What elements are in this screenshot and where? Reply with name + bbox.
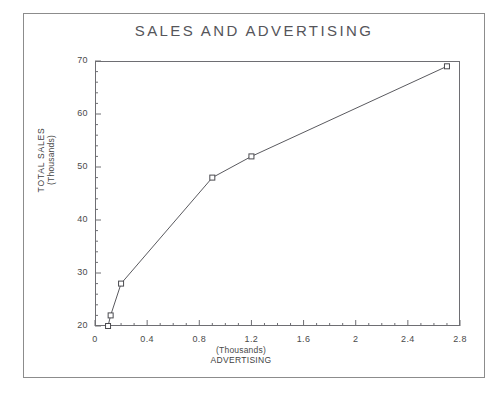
data-point-marker	[444, 64, 449, 69]
x-axis-tick-label: 0.8	[182, 334, 216, 344]
y-axis-title: TOTAL SALES (Thousands)	[36, 112, 56, 208]
x-axis-tick-label: 2	[339, 334, 373, 344]
y-axis-tick-label: 60	[62, 108, 88, 118]
data-point-marker	[108, 313, 113, 318]
data-point-marker	[106, 324, 111, 329]
y-axis-name-label: TOTAL SALES	[36, 112, 46, 208]
x-axis-tick-label: 1.6	[287, 334, 321, 344]
y-axis-tick-label: 40	[62, 214, 88, 224]
x-axis-title: (Thousands) ADVERTISING	[171, 345, 311, 365]
y-axis-ticks	[95, 61, 101, 326]
x-axis-name-label: ADVERTISING	[171, 355, 311, 365]
y-axis-tick-label: 20	[62, 320, 88, 330]
data-point-marker	[249, 154, 254, 159]
x-axis-tick-label: 2.4	[391, 334, 425, 344]
x-axis-ticks	[95, 320, 460, 326]
data-line	[108, 66, 447, 326]
x-axis-units-label: (Thousands)	[171, 345, 311, 355]
data-point-marker	[119, 281, 124, 286]
x-axis-tick-label: 0.4	[130, 334, 164, 344]
data-markers	[106, 64, 450, 329]
y-axis-units-label: (Thousands)	[46, 112, 56, 208]
chart-figure: SALES AND ADVERTISING 203040506070 00.40…	[0, 0, 502, 399]
y-axis-tick-label: 30	[62, 267, 88, 277]
y-axis-tick-label: 50	[62, 161, 88, 171]
x-axis-tick-label: 2.8	[443, 334, 477, 344]
y-axis-tick-label: 70	[62, 55, 88, 65]
x-axis-tick-label: 1.2	[234, 334, 268, 344]
data-point-marker	[210, 175, 215, 180]
x-axis-tick-label: 0	[78, 334, 112, 344]
